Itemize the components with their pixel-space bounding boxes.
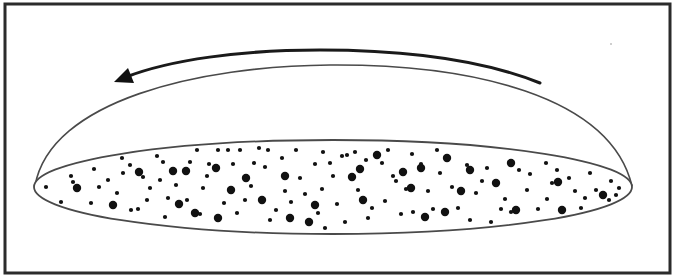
star-dot-large <box>359 196 367 204</box>
star-dot-small <box>174 183 178 187</box>
star-dot-large <box>492 179 500 187</box>
star-dot-small <box>435 148 439 152</box>
star-dot-small <box>268 218 272 222</box>
star-dot-small <box>257 146 261 150</box>
star-dot-small <box>235 211 239 215</box>
star-dot-small <box>97 185 101 189</box>
star-dot-small <box>69 174 73 178</box>
star-dot-small <box>316 211 320 215</box>
star-dot-large <box>305 218 313 226</box>
star-dot-small <box>59 200 63 204</box>
star-dot-small <box>115 191 119 195</box>
star-dot-small <box>583 196 587 200</box>
star-dot-small <box>340 154 344 158</box>
star-dot-small <box>485 166 489 170</box>
star-dot-small <box>163 215 167 219</box>
star-dot-small <box>283 189 287 193</box>
star-dot-small <box>343 220 347 224</box>
star-dot-small <box>614 193 618 197</box>
star-dot-small <box>525 188 529 192</box>
star-dot-small <box>280 156 284 160</box>
star-dot-small <box>198 212 202 216</box>
star-dot-large <box>599 191 607 199</box>
star-dot-small <box>465 163 469 167</box>
star-dot-small <box>128 163 132 167</box>
star-dot-small <box>158 178 162 182</box>
star-dot-small <box>544 161 548 165</box>
star-dot-small <box>195 148 199 152</box>
star-dot-small <box>573 189 577 193</box>
star-dot-small <box>536 207 540 211</box>
star-dot-small <box>226 148 230 152</box>
star-dot-small <box>550 181 554 185</box>
star-dot-large <box>311 201 319 209</box>
star-dot-small <box>480 179 484 183</box>
star-dot-large <box>242 174 250 182</box>
star-dot-small <box>391 174 395 178</box>
star-dot-small <box>588 171 592 175</box>
star-dot-small <box>331 174 335 178</box>
star-dot-large <box>214 214 222 222</box>
star-dot-small <box>320 187 324 191</box>
star-dot-small <box>263 165 267 169</box>
star-dot-small <box>528 172 532 176</box>
star-dot-small <box>155 154 159 158</box>
star-dot-large <box>507 159 515 167</box>
star-dot-small <box>121 171 125 175</box>
star-dot-large <box>73 184 81 192</box>
star-dot-large <box>356 165 364 173</box>
star-dot-large <box>286 214 294 222</box>
star-dot-small <box>313 162 317 166</box>
star-dot-small <box>617 186 621 190</box>
speck <box>610 43 612 45</box>
star-dot-small <box>353 150 357 154</box>
star-dot-small <box>499 207 503 211</box>
star-dot-large <box>558 206 566 214</box>
star-dot-large <box>109 201 117 209</box>
star-dot-small <box>607 198 611 202</box>
star-dot-small <box>321 150 325 154</box>
star-dot-large <box>554 178 562 186</box>
star-dot-small <box>383 199 387 203</box>
star-dot-small <box>370 206 374 210</box>
star-dot-small <box>136 207 140 211</box>
star-dot-small <box>456 206 460 210</box>
star-dot-small <box>545 197 549 201</box>
star-dot-large <box>182 167 190 175</box>
star-dot-small <box>106 178 110 182</box>
star-dot-small <box>71 180 75 184</box>
star-dot-small <box>411 210 415 214</box>
star-dot-large <box>443 154 451 162</box>
star-dot-small <box>609 179 613 183</box>
star-dot-large <box>281 172 289 180</box>
star-dot-small <box>489 220 493 224</box>
star-dot-small <box>252 161 256 165</box>
star-dot-small <box>404 187 408 191</box>
star-dot-small <box>503 197 507 201</box>
star-dot-small <box>166 196 170 200</box>
star-dot-small <box>579 206 583 210</box>
star-dot-small <box>335 202 339 206</box>
star-dot-small <box>120 156 124 160</box>
star-dot-large <box>227 186 235 194</box>
star-dot-large <box>457 187 465 195</box>
star-dot-small <box>222 201 226 205</box>
star-dot-small <box>366 216 370 220</box>
star-dot-large <box>512 206 520 214</box>
star-dot-large <box>191 209 199 217</box>
star-dot-small <box>129 208 133 212</box>
star-dot-small <box>148 186 152 190</box>
star-dot-small <box>161 160 165 164</box>
star-dot-small <box>249 184 253 188</box>
star-dot-small <box>231 162 235 166</box>
star-disk-ellipse <box>34 140 632 234</box>
star-dot-small <box>364 158 368 162</box>
star-dot-small <box>345 153 349 157</box>
star-dot-small <box>303 192 307 196</box>
star-dot-large <box>212 164 220 172</box>
star-dot-small <box>205 174 209 178</box>
star-dot-small <box>44 185 48 189</box>
star-dot-small <box>92 167 96 171</box>
star-dot-small <box>474 191 478 195</box>
star-dot-small <box>399 212 403 216</box>
